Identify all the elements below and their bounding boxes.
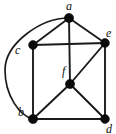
vertex-f (65, 79, 74, 88)
vertex-b (28, 114, 37, 123)
graph-figure: a c e f b d (0, 0, 116, 134)
edge-f-b (33, 84, 70, 119)
edge-a-f (69, 18, 70, 84)
vertex-label-f: f (62, 65, 65, 77)
edge-c-e (33, 43, 105, 45)
edge-a-e (69, 18, 105, 43)
vertex-label-a: a (66, 0, 72, 12)
vertex-label-e: e (106, 27, 111, 39)
edge-f-d (70, 84, 105, 119)
vertex-a (64, 13, 73, 22)
edge-a-c (33, 18, 69, 45)
edge-group (5, 18, 105, 119)
vertex-label-b: b (18, 106, 24, 118)
vertex-c (29, 41, 38, 50)
edge-a-b-curved (5, 18, 69, 119)
edge-e-f (70, 43, 105, 84)
vertex-label-d: d (106, 123, 112, 134)
vertex-label-c: c (15, 44, 20, 56)
